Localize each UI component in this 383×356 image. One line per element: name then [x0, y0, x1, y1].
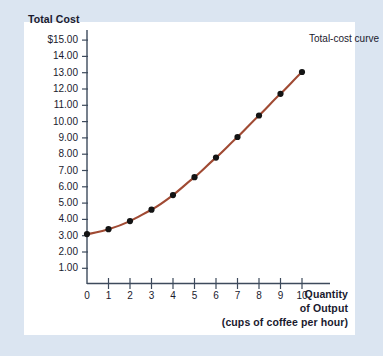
y-tick-label: 13.00 — [26, 67, 78, 78]
series-label: Total-cost curve — [309, 33, 379, 44]
x-tick-label: 0 — [79, 290, 95, 301]
data-point — [84, 231, 90, 237]
x-tick-label: 5 — [187, 290, 203, 301]
x-axis-title-line2: of Output — [228, 302, 348, 314]
data-point-markers — [84, 69, 305, 237]
data-point — [148, 207, 154, 213]
data-point — [256, 112, 262, 118]
y-tick-label: 8.00 — [26, 148, 78, 159]
data-point — [277, 91, 283, 97]
chart-figure: Total Cost $15.00 14.00 13.00 12.00 11.0… — [0, 0, 383, 356]
y-tick-label: 12.00 — [26, 83, 78, 94]
x-tick-label: 6 — [208, 290, 224, 301]
total-cost-curve — [87, 72, 302, 234]
y-tick-label: 4.00 — [26, 213, 78, 224]
y-tick-label: 1.00 — [26, 262, 78, 273]
x-tick-label: 3 — [144, 290, 160, 301]
x-axis-title-line1: Quantity — [228, 288, 348, 300]
data-point — [213, 155, 219, 161]
y-axis-title: Total Cost — [28, 13, 80, 25]
data-point — [299, 69, 305, 75]
data-point — [127, 218, 133, 224]
y-tick-label: 5.00 — [26, 197, 78, 208]
y-tick-label: 2.00 — [26, 246, 78, 257]
y-tick-label: 14.00 — [26, 50, 78, 61]
y-tick-label: 7.00 — [26, 165, 78, 176]
y-tick-label: 10.00 — [26, 116, 78, 127]
y-tick-label: 3.00 — [26, 230, 78, 241]
x-axis-title-units: (cups of coffee per hour) — [188, 316, 348, 328]
data-point — [105, 226, 111, 232]
y-tick-label: 11.00 — [26, 99, 78, 110]
y-tick-label: $15.00 — [26, 34, 78, 45]
x-tick-label: 4 — [165, 290, 181, 301]
y-tick-label: 6.00 — [26, 181, 78, 192]
data-point — [234, 134, 240, 140]
y-tick-label: 9.00 — [26, 132, 78, 143]
data-point — [191, 174, 197, 180]
data-point — [170, 192, 176, 198]
x-tick-label: 1 — [101, 290, 117, 301]
x-tick-label: 2 — [122, 290, 138, 301]
